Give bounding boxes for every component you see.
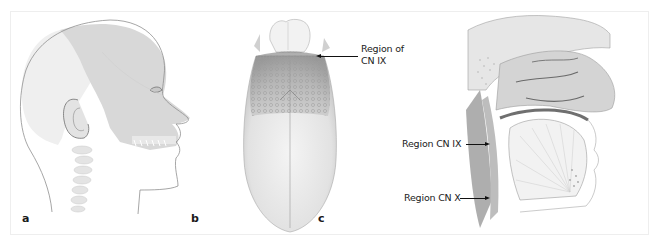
panel-b-tongue: b bbox=[220, 0, 420, 245]
sagittal-section-illustration bbox=[460, 0, 650, 245]
panel-letter-c-text: c bbox=[318, 212, 325, 225]
arrow-sagittal-cn-ix bbox=[466, 144, 486, 145]
panel-letter-b-text: b bbox=[191, 212, 199, 225]
callout-sagittal-cn-ix: Region CN IX bbox=[402, 138, 461, 150]
arrow-sagittal-cn-x bbox=[460, 198, 486, 199]
callout-sagittal-cn-x: Region CN X bbox=[404, 192, 461, 204]
arrow-head-sagittal-cn-x bbox=[485, 196, 490, 200]
callout-tongue-line1: Region of bbox=[361, 43, 404, 55]
panel-label-b-anchor: b bbox=[191, 213, 199, 224]
arrow-head-sagittal-cn-ix bbox=[485, 142, 490, 146]
tongue-illustration bbox=[220, 0, 420, 245]
panel-a-head-profile: a bbox=[0, 0, 220, 245]
panel-label-a: a bbox=[22, 213, 29, 224]
panel-label-c: c bbox=[318, 213, 325, 224]
head-profile-illustration bbox=[0, 0, 220, 245]
panel-c-sagittal-section: c bbox=[460, 0, 650, 245]
callout-tongue-line2: CN IX bbox=[361, 55, 404, 67]
callout-tongue-cn-ix: Region of CN IX bbox=[361, 43, 404, 67]
arrow-tongue-cn-ix bbox=[320, 56, 358, 57]
